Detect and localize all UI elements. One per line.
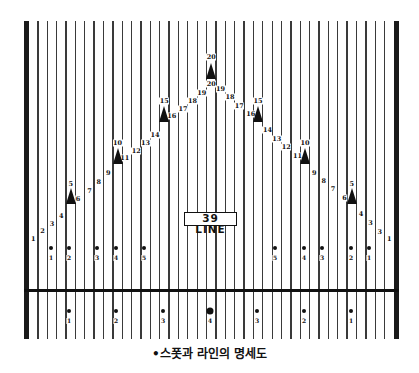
arrow-label: 5 xyxy=(349,181,355,188)
arrow-label: 10 xyxy=(112,140,122,147)
target-arrow-icon xyxy=(113,148,123,164)
approach-lower-dot-icon xyxy=(114,309,118,313)
approach-lower-dot-label: 1 xyxy=(66,318,71,324)
approach-upper-dot-label: 5 xyxy=(141,255,146,261)
board-number: 8 xyxy=(321,178,327,185)
board-number: 2 xyxy=(40,228,46,235)
board-number: 3 xyxy=(377,229,383,236)
board-number: 7 xyxy=(330,186,336,193)
board-number: 8 xyxy=(96,179,102,186)
approach-lower-dot-icon xyxy=(207,308,214,315)
approach-lower-dot-label: 2 xyxy=(301,318,306,324)
board-number: 9 xyxy=(105,170,111,177)
approach-upper-dot-label: 1 xyxy=(366,255,371,261)
bowling-lane-diagram: 1234678911121314161718192019181716141312… xyxy=(0,0,419,373)
board-number: 18 xyxy=(225,94,235,101)
board-number: 19 xyxy=(216,86,226,93)
approach-lower-dot-icon xyxy=(161,309,165,313)
board-number: 12 xyxy=(281,144,291,151)
board-number: 13 xyxy=(272,136,282,143)
approach-upper-dot-label: 4 xyxy=(113,255,118,261)
approach-upper-dot-icon xyxy=(320,246,324,250)
approach-upper-dot-icon xyxy=(273,246,277,250)
approach-lower-dot-label: 4 xyxy=(207,318,212,324)
board-number: 17 xyxy=(178,106,188,113)
board-number: 17 xyxy=(234,103,244,110)
arrow-label: 15 xyxy=(159,98,169,105)
figure-caption: •스폿과 라인의 명세도 xyxy=(0,344,419,361)
approach-upper-dot-label: 1 xyxy=(48,255,53,261)
approach-lower-dot-icon xyxy=(67,309,71,313)
board-number: 13 xyxy=(141,140,151,147)
board-number: 3 xyxy=(49,221,55,228)
target-arrow-icon xyxy=(253,106,263,122)
approach-upper-dot-icon xyxy=(349,246,353,250)
board-number: 4 xyxy=(358,211,364,218)
target-arrow-icon xyxy=(347,188,357,204)
approach-upper-dot-label: 3 xyxy=(319,255,324,261)
approach-upper-dot-icon xyxy=(142,246,146,250)
board-number: 7 xyxy=(87,188,93,195)
target-arrow-icon xyxy=(206,63,216,79)
approach-lower-dot-label: 3 xyxy=(160,318,165,324)
approach-upper-dot-label: 3 xyxy=(94,255,99,261)
approach-upper-dot-icon xyxy=(67,246,71,250)
board-number: 12 xyxy=(131,148,141,155)
target-arrow-icon xyxy=(66,188,76,204)
board-number: 4 xyxy=(59,213,65,220)
approach-lower-dot-icon xyxy=(349,309,353,313)
arrow-label: 20 xyxy=(206,54,216,61)
approach-upper-dot-icon xyxy=(114,246,118,250)
arrow-label: 10 xyxy=(300,140,310,147)
target-arrow-icon xyxy=(159,106,169,122)
approach-upper-dot-icon xyxy=(95,246,99,250)
board-count-label: 39 LINE xyxy=(184,212,237,226)
board-number: 1 xyxy=(30,236,36,243)
approach-lower-dot-label: 2 xyxy=(113,318,118,324)
approach-upper-dot-label: 4 xyxy=(301,255,306,261)
approach-lower-dot-label: 1 xyxy=(348,318,353,324)
board-number: 1 xyxy=(386,236,392,243)
target-arrow-icon xyxy=(300,148,310,164)
arrow-label: 15 xyxy=(253,98,263,105)
approach-lower-dot-label: 3 xyxy=(254,318,259,324)
arrow-label: 5 xyxy=(68,181,74,188)
board-number: 18 xyxy=(187,98,197,105)
approach-lower-dot-icon xyxy=(255,309,259,313)
board-number: 19 xyxy=(197,90,207,97)
board-number: 6 xyxy=(75,196,81,203)
approach-upper-dot-label: 2 xyxy=(348,255,353,261)
approach-upper-dot-label: 5 xyxy=(272,255,277,261)
foul-line xyxy=(24,289,399,292)
approach-lower-dot-icon xyxy=(302,309,306,313)
board-number: 3 xyxy=(368,220,374,227)
approach-upper-dot-icon xyxy=(367,246,371,250)
approach-upper-dot-icon xyxy=(49,246,53,250)
board-number: 14 xyxy=(150,132,160,139)
board-number: 9 xyxy=(312,170,318,177)
board-number: 14 xyxy=(262,127,272,134)
approach-upper-dot-label: 2 xyxy=(66,255,71,261)
approach-upper-dot-icon xyxy=(302,246,306,250)
